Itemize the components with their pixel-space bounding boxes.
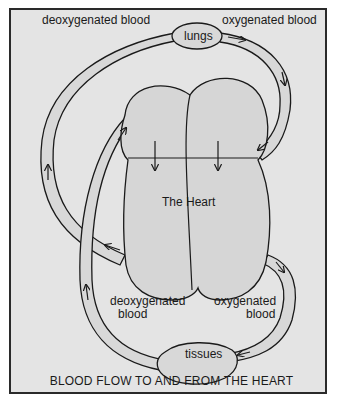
- label-tissues: tissues: [185, 348, 222, 361]
- label-oxygenated-top: oxygenated blood: [222, 14, 317, 27]
- label-deoxygenated-bottom-2: blood: [118, 308, 147, 321]
- heart: [121, 78, 270, 300]
- label-deoxygenated-top: deoxygenated blood: [42, 14, 150, 27]
- label-oxygenated-bottom-2: blood: [246, 308, 275, 321]
- diagram-caption: BLOOD FLOW TO AND FROM THE HEART: [0, 374, 343, 388]
- label-lungs: lungs: [184, 30, 213, 43]
- label-the-heart: The Heart: [162, 196, 215, 209]
